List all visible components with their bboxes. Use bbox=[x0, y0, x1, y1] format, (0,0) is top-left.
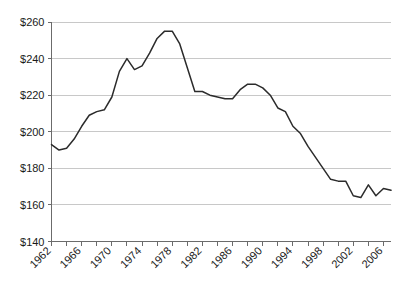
x-axis-tick-label: 1986 bbox=[208, 244, 234, 270]
x-axis-tick-label: 1998 bbox=[299, 244, 325, 270]
y-axis-tick-label: $140 bbox=[20, 236, 44, 248]
chart-container: $260$240$220$200$180$160$140 19621966197… bbox=[0, 0, 404, 296]
y-axis-tick-label: $240 bbox=[20, 53, 44, 65]
y-axis-labels-group: $260$240$220$200$180$160$140 bbox=[20, 16, 44, 248]
x-axis-tick-label: 1994 bbox=[269, 244, 295, 270]
data-series-line bbox=[52, 31, 392, 197]
x-axis-tick-label: 2006 bbox=[359, 244, 385, 270]
x-axis-tick-label: 1974 bbox=[118, 244, 144, 270]
x-axis-tick-label: 1982 bbox=[178, 244, 204, 270]
x-axis-tick-label: 1978 bbox=[148, 244, 174, 270]
y-axis-tick-label: $160 bbox=[20, 199, 44, 211]
x-axis-ticks-group bbox=[52, 242, 384, 246]
x-axis-tick-label: 2002 bbox=[329, 244, 355, 270]
x-axis-tick-label: 1990 bbox=[238, 244, 264, 270]
line-chart: $260$240$220$200$180$160$140 19621966197… bbox=[0, 0, 404, 296]
y-axis-tick-label: $200 bbox=[20, 126, 44, 138]
y-axis-tick-label: $260 bbox=[20, 16, 44, 28]
x-axis-tick-label: 1970 bbox=[87, 244, 113, 270]
y-axis-tick-label: $220 bbox=[20, 89, 44, 101]
x-axis-tick-label: 1966 bbox=[57, 244, 83, 270]
x-axis-tick-label: 1962 bbox=[27, 244, 53, 270]
x-axis-labels-group: 1962196619701974197819821986199019941998… bbox=[27, 244, 385, 270]
y-axis-tick-label: $180 bbox=[20, 162, 44, 174]
gridlines-group bbox=[52, 22, 392, 242]
